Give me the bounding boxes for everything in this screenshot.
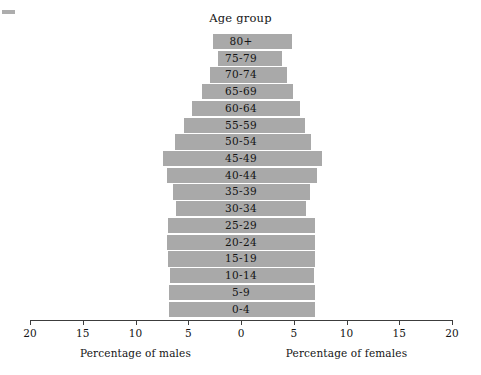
- x-axis: 201510505101520Percentage of malesPercen…: [0, 320, 481, 375]
- x-axis-tick: [399, 320, 400, 325]
- pyramid-row: 70-74: [0, 67, 481, 84]
- age-group-label: 45-49: [0, 151, 481, 166]
- age-group-label: 5-9: [0, 285, 481, 300]
- x-axis-tick: [30, 320, 31, 325]
- pyramid-row: 65-69: [0, 84, 481, 101]
- x-axis-tick: [294, 320, 295, 325]
- pyramid-row: 40-44: [0, 168, 481, 185]
- age-group-label: 55-59: [0, 118, 481, 133]
- pyramid-row: 20-24: [0, 235, 481, 252]
- age-group-label: 75-79: [0, 51, 481, 66]
- chart-title: Age group: [0, 11, 481, 25]
- x-axis-label-males: Percentage of males: [36, 347, 236, 359]
- x-axis-tick-label: 10: [327, 327, 367, 339]
- x-axis-tick-label: 20: [432, 327, 472, 339]
- pyramid-row: 35-39: [0, 184, 481, 201]
- pyramid-row: 45-49: [0, 151, 481, 168]
- age-group-label: 0-4: [0, 302, 481, 317]
- pyramid-row: 10-14: [0, 268, 481, 285]
- pyramid-row: 50-54: [0, 134, 481, 151]
- plot-area: 80+75-7970-7465-6960-6455-5950-5445-4940…: [0, 34, 481, 320]
- x-axis-tick-label: 15: [379, 327, 419, 339]
- x-axis-tick: [188, 320, 189, 325]
- x-axis-tick: [136, 320, 137, 325]
- age-group-label: 80+: [0, 34, 481, 49]
- pyramid-row: 60-64: [0, 101, 481, 118]
- age-group-label: 10-14: [0, 268, 481, 283]
- x-axis-tick: [452, 320, 453, 325]
- x-axis-tick: [241, 320, 242, 325]
- pyramid-row: 80+: [0, 34, 481, 51]
- pyramid-row: 5-9: [0, 285, 481, 302]
- x-axis-label-females: Percentage of females: [247, 347, 447, 359]
- x-axis-tick-label: 0: [221, 327, 261, 339]
- population-pyramid-figure: Age group 80+75-7970-7465-6960-6455-5950…: [0, 0, 481, 375]
- age-group-label: 15-19: [0, 251, 481, 266]
- x-axis-tick: [83, 320, 84, 325]
- pyramid-row: 30-34: [0, 201, 481, 218]
- x-axis-tick-label: 10: [116, 327, 156, 339]
- age-group-label: 60-64: [0, 101, 481, 116]
- x-axis-tick: [347, 320, 348, 325]
- age-group-label: 30-34: [0, 201, 481, 216]
- pyramid-row: 75-79: [0, 51, 481, 68]
- age-group-label: 35-39: [0, 184, 481, 199]
- age-group-label: 50-54: [0, 134, 481, 149]
- x-axis-tick-label: 20: [10, 327, 50, 339]
- age-group-label: 70-74: [0, 67, 481, 82]
- age-group-label: 65-69: [0, 84, 481, 99]
- pyramid-row: 55-59: [0, 118, 481, 135]
- pyramid-row: 15-19: [0, 251, 481, 268]
- x-axis-tick-label: 5: [274, 327, 314, 339]
- pyramid-row: 0-4: [0, 302, 481, 319]
- age-group-label: 20-24: [0, 235, 481, 250]
- age-group-label: 40-44: [0, 168, 481, 183]
- pyramid-row: 25-29: [0, 218, 481, 235]
- x-axis-tick-label: 5: [168, 327, 208, 339]
- x-axis-tick-label: 15: [63, 327, 103, 339]
- age-group-label: 25-29: [0, 218, 481, 233]
